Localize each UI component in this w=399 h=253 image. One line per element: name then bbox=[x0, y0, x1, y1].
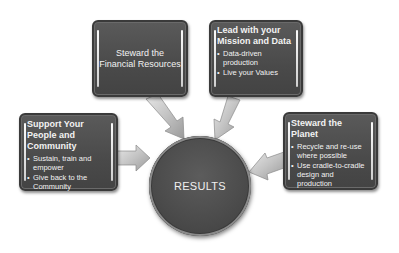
results-circle: RESULTS bbox=[149, 136, 251, 236]
arrow-people-to-results bbox=[117, 145, 150, 171]
node-steward-planet: Steward the Planet Recycle and re-use wh… bbox=[283, 112, 378, 190]
node-title-line2: Financial Resources bbox=[99, 59, 181, 69]
bullet-item: Data-driven production bbox=[217, 49, 295, 67]
arrow-financial-to-results bbox=[146, 94, 184, 139]
node-steward-financial-resources: Steward the Financial Resources bbox=[92, 20, 188, 97]
node-title: Support Your People and Community bbox=[27, 119, 110, 152]
arrow-planet-to-results bbox=[249, 152, 284, 180]
arrow-mission-to-results bbox=[214, 96, 240, 140]
bullet-item: Recycle and re-use where possible bbox=[291, 142, 370, 160]
node-title-line1: Steward the bbox=[116, 48, 164, 58]
bullet-list: Data-driven production Live your Values bbox=[217, 49, 295, 77]
bullet-list: Recycle and re-use where possible Use cr… bbox=[291, 142, 370, 188]
node-title: Steward the Planet bbox=[291, 118, 370, 140]
bullet-item: Live your Values bbox=[217, 68, 295, 77]
node-title: Steward the Financial Resources bbox=[99, 48, 181, 70]
node-lead-with-mission: Lead with your Mission and Data Data-dri… bbox=[209, 20, 303, 97]
results-label: RESULTS bbox=[174, 180, 226, 192]
node-title: Lead with your Mission and Data bbox=[217, 25, 295, 47]
bullet-item: Give back to the Community bbox=[27, 173, 110, 191]
bullet-item: Use cradle-to-cradle design and producti… bbox=[291, 161, 370, 188]
node-support-people-community: Support Your People and Community Sustai… bbox=[19, 113, 118, 191]
bullet-item: Sustain, train and empower bbox=[27, 154, 110, 172]
bullet-list: Sustain, train and empower Give back to … bbox=[27, 154, 110, 191]
